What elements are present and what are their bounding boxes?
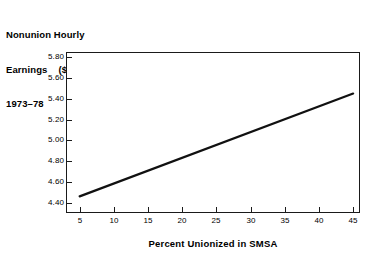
y-axis-tick	[66, 99, 72, 100]
y-axis-tick-label: 4.60	[24, 178, 64, 186]
y-axis-tick-label: 5.80	[24, 53, 64, 61]
x-axis-tick	[319, 207, 320, 213]
x-axis-tick-label: 10	[99, 216, 129, 225]
x-axis-tick-label: 20	[167, 216, 197, 225]
x-axis-tick-label: 35	[270, 216, 300, 225]
x-axis-tick-label: 40	[304, 216, 334, 225]
y-axis-tick-label: 4.40	[24, 199, 64, 207]
x-axis-tick	[353, 207, 354, 213]
x-axis-tick	[182, 207, 183, 213]
x-axis-tick	[148, 207, 149, 213]
y-axis-tick	[66, 78, 72, 79]
x-axis-tick-label: 5	[65, 216, 95, 225]
x-axis-tick	[114, 207, 115, 213]
y-axis-tick	[66, 182, 72, 183]
y-axis-tick-label: 5.00	[24, 136, 64, 144]
x-axis-tick-label: 30	[236, 216, 266, 225]
x-axis-title: Percent Unionized in SMSA	[66, 238, 360, 249]
line-chart: Percent Unionized in SMSA 4.404.604.805.…	[0, 0, 384, 270]
y-axis-tick	[66, 120, 72, 121]
x-axis-tick	[80, 207, 81, 213]
x-axis-tick	[216, 207, 217, 213]
y-axis-tick-label: 5.20	[24, 116, 64, 124]
x-axis-tick-label: 45	[338, 216, 368, 225]
y-axis-tick-label: 5.40	[24, 95, 64, 103]
y-axis-tick	[66, 161, 72, 162]
x-axis-tick-label: 25	[201, 216, 231, 225]
x-axis-tick	[285, 207, 286, 213]
y-axis-tick	[66, 57, 72, 58]
y-axis-tick	[66, 140, 72, 141]
x-axis-tick	[251, 207, 252, 213]
y-axis-tick	[66, 203, 72, 204]
x-axis-tick-label: 15	[133, 216, 163, 225]
y-axis-tick-label: 5.60	[24, 74, 64, 82]
series-line-nonunion-earnings	[66, 52, 360, 213]
y-axis-tick-label: 4.80	[24, 157, 64, 165]
